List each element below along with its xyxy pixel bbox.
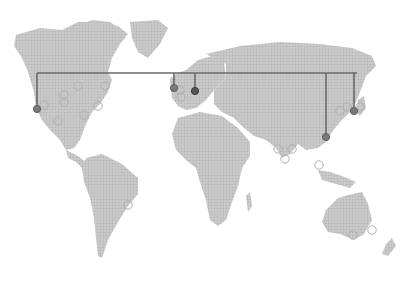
world-map [0,0,415,281]
greenland [130,20,168,58]
south-america [82,154,138,258]
southeast-asia-islands [318,170,356,188]
landmasses [14,20,396,258]
connected-marker-icon-central-europe[interactable] [191,87,198,94]
madagascar [246,192,252,212]
connected-marker-icon-hong-kong[interactable] [322,133,329,140]
connected-marker-icon-uk[interactable] [170,84,177,91]
connected-marker-icon-us-west[interactable] [33,105,40,112]
north-america [14,22,128,150]
location-marker-icon[interactable] [315,161,323,169]
world-map-canvas [0,0,415,281]
new-zealand [382,238,396,256]
location-marker-icon[interactable] [368,226,376,234]
australia [322,192,372,240]
connected-marker-icon-japan[interactable] [350,107,357,114]
africa [172,112,250,226]
